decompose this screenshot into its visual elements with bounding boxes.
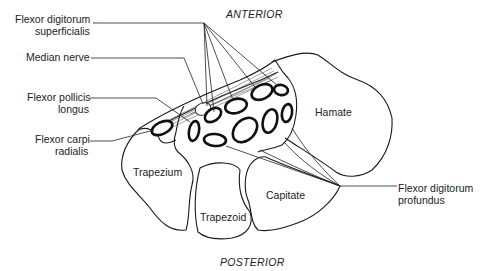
capitate-label: Capitate — [266, 189, 305, 201]
trapezoid-outline — [195, 163, 251, 239]
anterior-label: ANTERIOR — [225, 8, 283, 20]
fds-label-line1: Flexor digitorum — [15, 13, 91, 25]
trapezoid-label: Trapezoid — [200, 211, 246, 223]
flexor-tendon-7 — [260, 108, 280, 135]
fcr-label-line1: Flexor carpi — [35, 133, 90, 145]
carpal-tunnel-cross-section-diagram: ANTERIOR POSTERIOR Hamate Trapezium Trap… — [0, 0, 489, 271]
median-nerve-leader — [91, 58, 203, 104]
flexor-tendon-2 — [224, 96, 249, 115]
trapezium-label: Trapezium — [133, 166, 182, 178]
fpl-tendon — [187, 120, 200, 141]
fdp-label-line2: profundus — [398, 194, 445, 206]
median-nerve-label: Median nerve — [26, 51, 90, 63]
hamate-label: Hamate — [315, 106, 352, 118]
fpl-label-line1: Flexor pollicis — [27, 91, 91, 103]
posterior-label: POSTERIOR — [220, 256, 285, 268]
fcr-leader — [90, 130, 154, 141]
trapezium-outline — [122, 128, 193, 230]
flexor-tendon-5 — [204, 133, 227, 147]
fdp-label-line1: Flexor digitorum — [398, 182, 474, 194]
fcr-label-line2: radialis — [55, 145, 88, 157]
flexor-tendon-4 — [273, 84, 289, 96]
fpl-label-line2: longus — [58, 103, 89, 115]
flexor-tendon-6 — [228, 113, 262, 147]
flexor-tendon-8 — [281, 103, 294, 122]
fds-label-line2: superficialis — [35, 25, 90, 37]
fcr-tendon — [149, 118, 174, 138]
